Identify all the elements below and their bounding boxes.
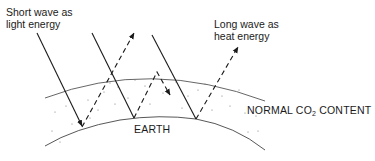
atmosphere-boundary-arc bbox=[45, 79, 265, 101]
incoming-ray-2 bbox=[92, 33, 134, 118]
incoming-ray-1 bbox=[37, 33, 82, 126]
long-wave-label: Long wave as heat energy bbox=[214, 19, 279, 42]
short-wave-label-line2: light energy bbox=[6, 19, 73, 31]
co2-content-label: NORMAL CO2 CONTENT bbox=[247, 104, 371, 117]
co2-label-suffix: CONTENT bbox=[316, 104, 371, 116]
incoming-ray-3 bbox=[152, 35, 196, 119]
short-wave-label-line1: Short wave as bbox=[6, 7, 73, 19]
co2-label-prefix: NORMAL CO bbox=[247, 104, 312, 116]
long-wave-label-line2: heat energy bbox=[214, 31, 279, 43]
short-wave-label: Short wave as light energy bbox=[6, 7, 73, 30]
earth-label: EARTH bbox=[134, 123, 170, 135]
outgoing-ray-escaping-2 bbox=[196, 47, 238, 119]
long-wave-label-line1: Long wave as bbox=[214, 19, 279, 31]
